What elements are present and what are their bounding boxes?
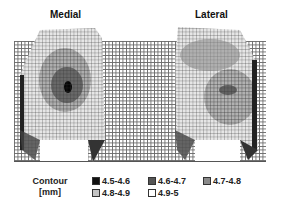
legend-swatch (148, 177, 156, 185)
legend-swatch (203, 177, 211, 185)
medial-surface (0, 0, 281, 170)
legend-item-4.7-4.8: 4.7-4.8 (203, 176, 241, 186)
legend-swatch (92, 189, 100, 197)
legend-label: Contour [mm] (30, 176, 70, 198)
legend-item-4.9-5: 4.9-5 (148, 188, 179, 198)
legend-item-4.8-4.9: 4.8-4.9 (92, 188, 130, 198)
legend-swatch (148, 189, 156, 197)
legend-item-4.6-4.7: 4.6-4.7 (148, 176, 186, 186)
legend-swatch (92, 177, 100, 185)
legend-item-4.5-4.6: 4.5-4.6 (92, 176, 130, 186)
